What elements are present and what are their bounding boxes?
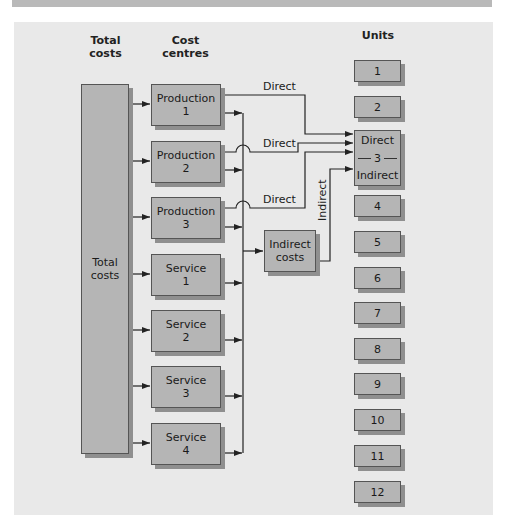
indirect-costs-box: Indirect costs	[264, 230, 316, 272]
cost-centre-service-1: Service1	[151, 254, 221, 296]
cost-centre-production-2: Production2	[151, 141, 221, 183]
unit-12: 12	[354, 481, 401, 503]
unit-3-number: 3	[355, 152, 400, 165]
unit-8: 8	[354, 338, 401, 360]
cost-centre-service-3: Service3	[151, 366, 221, 408]
cost-centre-service-4: Service4	[151, 423, 221, 465]
connector-lines	[0, 0, 507, 528]
unit-7: 7	[354, 302, 401, 324]
unit-3-direct-label: Direct	[361, 134, 394, 147]
total-costs-box: Total costs	[81, 84, 129, 454]
unit-2: 2	[354, 96, 401, 118]
unit-6: 6	[354, 267, 401, 289]
unit-11: 11	[354, 445, 401, 467]
unit-3-indirect-label: Indirect	[357, 169, 399, 182]
unit-3: Direct 3 Indirect	[354, 130, 401, 186]
cost-centre-production-3: Production3	[151, 197, 221, 239]
label-direct-3: Direct	[263, 194, 296, 206]
label-direct-2: Direct	[263, 138, 296, 150]
unit-5: 5	[354, 231, 401, 253]
unit-1: 1	[354, 60, 401, 82]
label-direct-1: Direct	[263, 81, 296, 93]
label-indirect: Indirect	[316, 179, 329, 221]
cost-centre-production-1: Production1	[151, 84, 221, 126]
cost-centre-service-2: Service2	[151, 310, 221, 352]
unit-10: 10	[354, 409, 401, 431]
unit-9: 9	[354, 373, 401, 395]
unit-4: 4	[354, 195, 401, 217]
